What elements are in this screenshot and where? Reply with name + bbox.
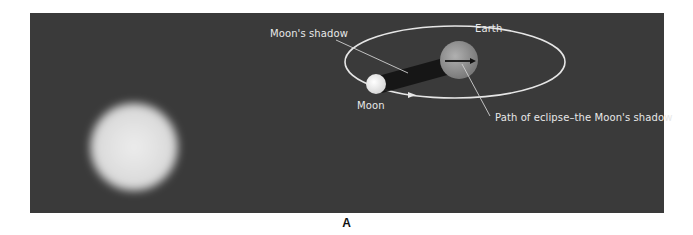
figure-caption: A [0, 216, 693, 230]
orbit-direction-arrow [408, 92, 416, 98]
label-earth: Earth [475, 23, 502, 34]
label-moons-shadow: Moon's shadow [270, 28, 348, 39]
eclipse-diagram-panel: Moon's shadow Earth Moon Path of eclipse… [30, 13, 664, 213]
earth-icon [440, 41, 478, 79]
sun-icon [90, 103, 178, 191]
leader-line-path-of-eclipse [462, 64, 490, 116]
moon-icon [366, 74, 386, 94]
label-moon: Moon [357, 100, 385, 111]
label-path-of-eclipse: Path of eclipse–the Moon's shadow [495, 112, 672, 123]
